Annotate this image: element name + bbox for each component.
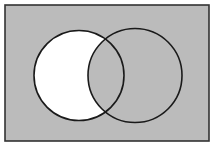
venn-diagram-svg bbox=[0, 0, 214, 146]
venn-diagram-figure bbox=[0, 0, 214, 146]
